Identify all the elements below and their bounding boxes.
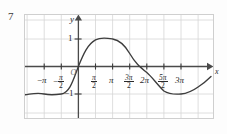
fraction-denominator: 2	[158, 81, 168, 90]
fraction-numerator: π	[91, 74, 97, 82]
x-axis-label: x	[215, 68, 219, 76]
x-tick-label-3pi-half: 3π2	[124, 74, 134, 90]
x-tick-label-neg-pi: −π	[37, 76, 47, 85]
x-tick-label-neg-pi-half: −π2	[53, 74, 64, 90]
y-tick-label-neg1: −-11	[64, 89, 74, 98]
fraction-pi-over-2: π2	[58, 74, 64, 90]
y-tick-label-1: 1	[68, 34, 73, 43]
x-tick-label-2pi: 2π	[140, 76, 149, 85]
exercise-number: 7	[8, 11, 14, 22]
fraction-numerator: 5π	[158, 74, 168, 82]
graph-svg	[25, 15, 213, 118]
fraction-3pi-over-2: 3π2	[124, 74, 134, 90]
x-axis	[25, 63, 213, 70]
y-neg-one-digit: 1	[69, 88, 74, 98]
figure-container: 7	[0, 0, 227, 134]
x-tick-label-pi-half: π2	[91, 74, 97, 90]
y-axis-label: y	[70, 15, 74, 24]
fraction-pi-over-2: π2	[91, 74, 97, 90]
fraction-numerator: 3π	[124, 74, 134, 82]
x-tick-label-5pi-half: 5π2	[158, 74, 168, 90]
x-tick-label-3pi: 3π	[175, 76, 184, 85]
pi-symbol: π	[42, 75, 47, 85]
fraction-denominator: 2	[124, 81, 134, 90]
graph-plot-area	[24, 14, 214, 119]
origin-label: O	[71, 69, 77, 77]
fraction-denominator: 2	[91, 81, 97, 90]
x-tick-label-pi: π	[109, 76, 114, 85]
fraction-numerator: π	[58, 74, 64, 82]
fraction-denominator: 2	[58, 81, 64, 90]
fraction-5pi-over-2: 5π2	[158, 74, 168, 90]
